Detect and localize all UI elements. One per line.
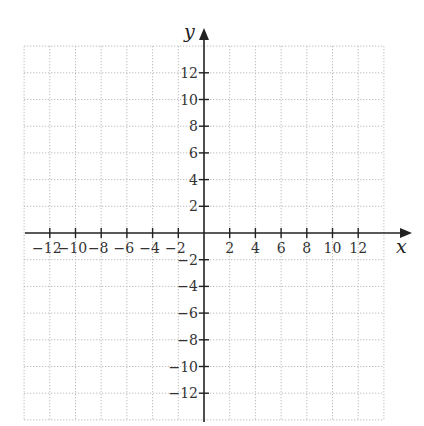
x-tick-label: −10 <box>58 240 88 256</box>
y-tick-label: 10 <box>180 92 198 108</box>
axes <box>25 28 412 422</box>
x-tick-label: 10 <box>324 240 342 256</box>
x-tick-label: −4 <box>139 240 160 256</box>
y-tick-label: −6 <box>177 305 198 321</box>
y-tick-label: −12 <box>168 385 198 401</box>
coordinate-plane: −12−10−8−6−4−22468101212108642−2−4−6−8−1… <box>0 0 424 426</box>
x-tick-label: −8 <box>88 240 109 256</box>
x-axis-label: x <box>396 235 407 257</box>
x-tick-label: 6 <box>277 240 286 256</box>
x-tick-label: −6 <box>114 240 135 256</box>
y-tick-label: −2 <box>177 252 198 268</box>
y-tick-label: −10 <box>168 359 198 375</box>
y-tick-label: −4 <box>177 278 198 294</box>
y-tick-label: 6 <box>189 145 198 161</box>
y-tick-label: −8 <box>177 332 198 348</box>
y-axis-label: y <box>183 20 195 42</box>
y-tick-label: 12 <box>180 65 198 81</box>
x-tick-label: 2 <box>225 240 234 256</box>
x-tick-label: 4 <box>251 240 260 256</box>
x-tick-label: 12 <box>349 240 367 256</box>
y-tick-label: 8 <box>189 118 198 134</box>
y-tick-label: 2 <box>189 198 198 214</box>
y-tick-label: 4 <box>189 172 198 188</box>
y-axis-arrow-icon <box>199 28 209 40</box>
x-tick-label: 8 <box>302 240 311 256</box>
